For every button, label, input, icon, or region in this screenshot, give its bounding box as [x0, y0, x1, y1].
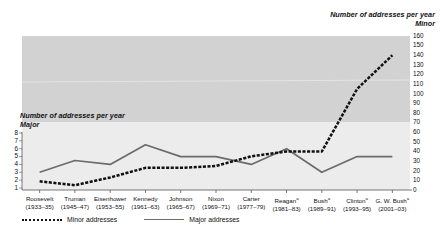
footnote-marker: a — [407, 196, 409, 201]
footnote-marker: a — [296, 196, 298, 201]
right-axis-title-line2: Minor — [330, 19, 435, 28]
left-axis-tick-1: 1 — [10, 185, 18, 191]
right-axis-title: Number of addresses per year Minor — [330, 10, 435, 28]
footnote-marker: a — [365, 196, 367, 201]
legend-swatch-major-icon — [144, 219, 184, 220]
footnote-marker: a — [328, 196, 330, 201]
right-axis-tick-50: 50 — [413, 139, 437, 145]
right-axis-tick-120: 120 — [413, 71, 437, 77]
left-axis-tick-5: 5 — [10, 153, 18, 159]
left-axis-tick-7: 7 — [10, 138, 18, 144]
left-axis-tick-8: 8 — [10, 130, 18, 136]
right-axis-tick-160: 160 — [413, 33, 437, 39]
legend-label-minor: Minor addresses — [67, 216, 117, 223]
left-axis-tick-4: 4 — [10, 161, 18, 167]
legend-item-minor: Minor addresses — [22, 216, 117, 223]
legend-label-major: Major addresses — [189, 216, 239, 223]
x-axis-label-years: (2001–03) — [371, 205, 414, 213]
left-axis-tick-6: 6 — [10, 146, 18, 152]
left-axis-tick-marks — [19, 133, 22, 188]
right-axis-tick-130: 130 — [413, 62, 437, 68]
upper-shaded-band — [22, 36, 410, 122]
x-axis-label-name: G. W. Busha — [371, 195, 414, 205]
left-axis-tick-3: 3 — [10, 169, 18, 175]
right-axis-tick-110: 110 — [413, 81, 437, 87]
right-axis-tick-150: 150 — [413, 42, 437, 48]
right-axis-tick-10: 10 — [413, 177, 437, 183]
right-axis-tick-70: 70 — [413, 119, 437, 125]
legend-item-major: Major addresses — [144, 216, 239, 223]
x-axis-label-g-w-bush: G. W. Busha(2001–03) — [371, 195, 414, 212]
right-axis-tick-0: 0 — [413, 187, 437, 193]
chart-container: Number of addresses per year Minor Numbe… — [0, 0, 440, 234]
right-axis-tick-30: 30 — [413, 158, 437, 164]
right-axis-title-line1: Number of addresses per year — [330, 10, 435, 19]
left-axis-tick-2: 2 — [10, 177, 18, 183]
right-axis-tick-90: 90 — [413, 100, 437, 106]
right-axis-tick-140: 140 — [413, 52, 437, 58]
chart-legend: Minor addresses Major addresses — [22, 216, 262, 223]
right-axis-tick-40: 40 — [413, 148, 437, 154]
left-axis-title-line2: Major — [20, 120, 125, 129]
legend-swatch-minor-icon — [22, 219, 62, 221]
left-axis-title: Number of addresses per year Major — [20, 111, 125, 129]
left-axis-title-line1: Number of addresses per year — [20, 111, 125, 120]
right-axis-tick-60: 60 — [413, 129, 437, 135]
x-axis-ticks — [40, 190, 393, 193]
right-axis-tick-80: 80 — [413, 110, 437, 116]
right-axis-tick-100: 100 — [413, 91, 437, 97]
right-axis-tick-20: 20 — [413, 168, 437, 174]
